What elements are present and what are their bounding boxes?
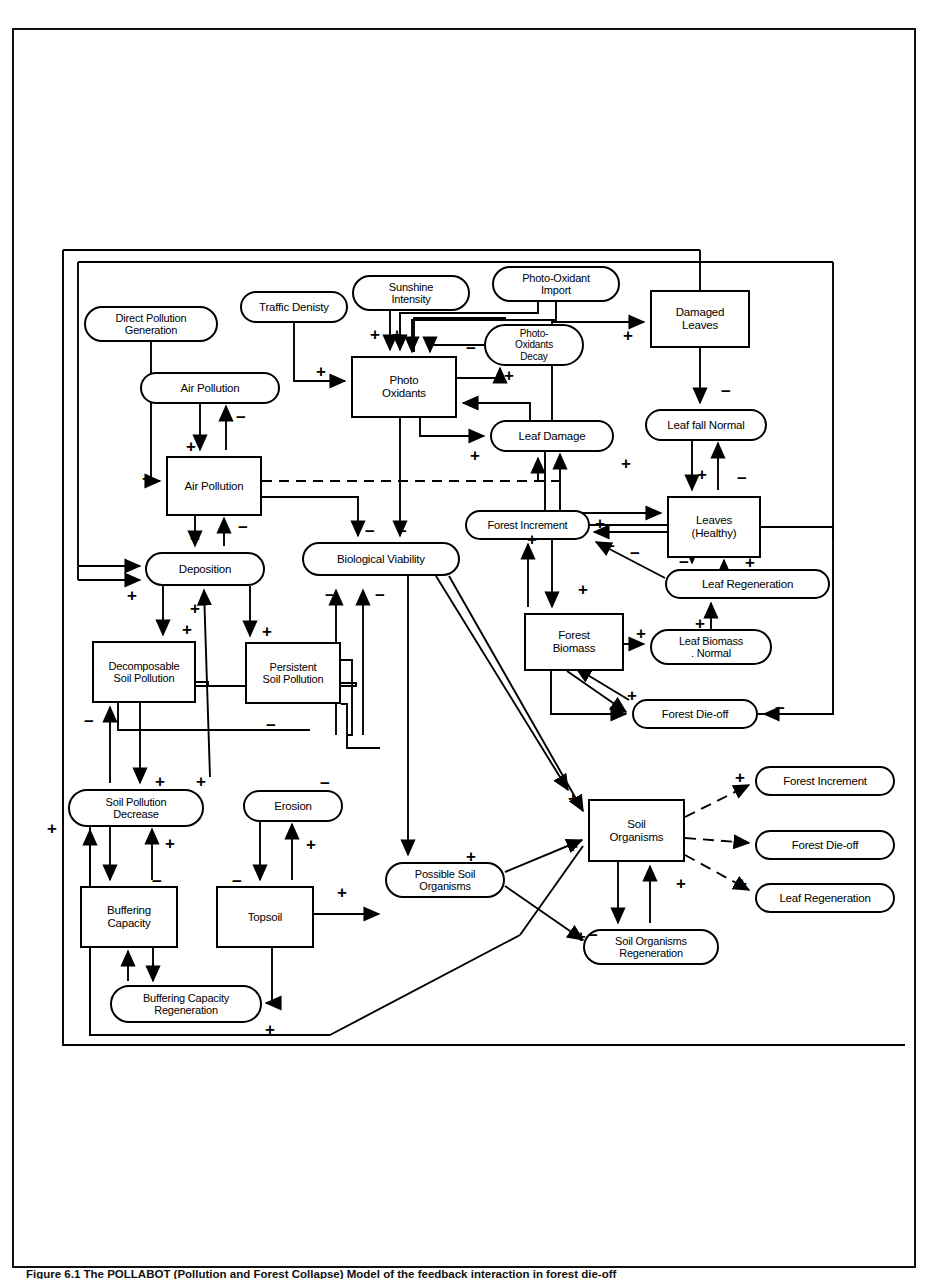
edge-sign-airrate-plus: + [186, 438, 196, 455]
node-possible-soil-organisms[interactable]: Possible Soil Organisms [385, 862, 505, 898]
edge-sign-fi-minus: − [605, 538, 615, 555]
node-photo-oxidants[interactable]: Photo Oxidants [351, 356, 457, 418]
node-label-photo-oxidants: Photo Oxidants [378, 374, 430, 400]
node-label-forest-die-off-out: Forest Die-off [788, 839, 863, 852]
node-leaf-regeneration[interactable]: Leaf Regeneration [665, 569, 830, 599]
edge-sign-leafbio-plus: + [636, 625, 646, 642]
node-label-photo-oxidant-import: Photo-Oxidant Import [518, 272, 594, 297]
edge-sign-bio-minus1: − [365, 523, 375, 540]
node-label-soil-organisms: Soil Organisms [606, 818, 668, 844]
node-leaf-regeneration-out[interactable]: Leaf Regeneration [755, 883, 895, 913]
edge-sign-dep-minus: − [238, 519, 248, 536]
edge-sign-healthy-minus: − [737, 470, 747, 487]
edge-sign-so-in-plus2: + [568, 838, 578, 855]
node-label-possible-soil-organisms: Possible Soil Organisms [411, 868, 479, 893]
edge-sign-sor-plus: + [676, 875, 686, 892]
edge-sign-eros-plus: + [306, 836, 316, 853]
edge-sign-bio-minus4: − [375, 587, 385, 604]
edge-sign-airlevel-plus: + [142, 470, 152, 487]
node-label-direct-pollution-generation: Direct Pollution Generation [112, 312, 191, 337]
node-forest-increment-out[interactable]: Forest Increment [755, 766, 895, 796]
node-photo-oxidant-import[interactable]: Photo-Oxidant Import [492, 266, 620, 302]
edge-sign-pox-plus-left: + [370, 326, 380, 343]
edge-sign-traffic-plus: + [316, 363, 326, 380]
edge-sign-fdo-out-minus: − [737, 833, 747, 850]
edge-sign-topsoil-minus: − [232, 873, 242, 890]
edge-sign-fi-out-plus: + [735, 769, 745, 786]
node-leaf-fall-normal[interactable]: Leaf fall Normal [645, 409, 767, 441]
edge-sign-leafbio-plus2: + [695, 615, 705, 632]
node-forest-die-off[interactable]: Forest Die-off [632, 699, 758, 729]
edge-sign-leafregen-plus: + [745, 554, 755, 571]
edge-sign-sor-minus: − [588, 927, 598, 944]
node-soil-organisms[interactable]: Soil Organisms [588, 799, 685, 862]
edge-sign-fb-plus: + [527, 531, 537, 548]
edge-sign-decay-plus: + [504, 367, 514, 384]
node-biological-viability[interactable]: Biological Viability [302, 542, 460, 576]
edge-sign-leafdmg2-plus: + [621, 455, 631, 472]
node-traffic-denisty[interactable]: Traffic Denisty [240, 291, 348, 323]
edge-sign-buff-plus: + [165, 835, 175, 852]
node-label-leaf-regeneration: Leaf Regeneration [698, 578, 797, 591]
edge-sign-persist-minus: − [266, 717, 276, 734]
edge-sign-decomp-minus: − [84, 713, 94, 730]
edge-sign-healthy-plus: + [697, 466, 707, 483]
node-soil-pollution-decrease[interactable]: Soil Pollution Decrease [68, 789, 204, 827]
edge-sign-airrate-minus: − [236, 409, 246, 426]
edge-sign-dep-plus: + [190, 530, 200, 547]
node-forest-biomass[interactable]: Forest Biomass [524, 613, 624, 671]
node-label-air-pollution-level: Air Pollution [181, 480, 248, 493]
edge-sign-decay-minus: − [466, 340, 476, 357]
edge-sign-dep-in-plus: + [127, 587, 137, 604]
node-persistent-soil-pollution[interactable]: Persistent Soil Pollution [245, 642, 341, 704]
node-soil-organisms-regeneration[interactable]: Soil Organisms Regeneration [583, 929, 719, 965]
node-air-pollution-rate[interactable]: Air Pollution [140, 372, 280, 404]
node-decomposable-soil-pollution[interactable]: Decomposable Soil Pollution [92, 641, 196, 703]
edge-sign-spd-plus2: + [196, 773, 206, 790]
edge-sign-decomp-plus: + [182, 621, 192, 638]
node-label-forest-increment-out: Forest Increment [779, 775, 871, 788]
edge-sign-fi-plus: + [595, 515, 605, 532]
edge-sign-leafregen-minus: − [679, 554, 689, 571]
edge-sign-pso-plus: + [466, 848, 476, 865]
node-label-leaves-healthy: Leaves (Healthy) [688, 514, 741, 540]
edge-sign-sor-plus2: + [576, 928, 586, 945]
node-buffering-capacity[interactable]: Buffering Capacity [80, 886, 178, 948]
node-topsoil[interactable]: Topsoil [216, 886, 314, 948]
edge-sign-bio-minus3: − [325, 587, 335, 604]
node-label-leaf-fall-normal: Leaf fall Normal [663, 419, 748, 432]
node-direct-pollution-generation[interactable]: Direct Pollution Generation [84, 306, 218, 342]
node-label-leaf-biomass-normal: Leaf Biomass . Normal [675, 635, 747, 660]
edge-sign-buff-minus: − [152, 873, 162, 890]
node-label-biological-viability: Biological Viability [333, 553, 429, 566]
node-label-leaf-damage: Leaf Damage [515, 430, 590, 443]
diagram-canvas [0, 0, 934, 1279]
node-forest-die-off-out[interactable]: Forest Die-off [755, 830, 895, 860]
edge-sign-so-in-plus1: + [568, 790, 578, 807]
edge-sign-lr-out-plus: + [737, 875, 747, 892]
node-air-pollution-level[interactable]: Air Pollution [166, 456, 262, 516]
node-label-forest-die-off: Forest Die-off [658, 708, 733, 721]
node-label-photo-oxidants-decay: Photo- Oxidants Decay [511, 328, 557, 362]
node-leaf-damage[interactable]: Leaf Damage [490, 420, 614, 452]
node-buffering-capacity-regeneration[interactable]: Buffering Capacity Regeneration [110, 985, 262, 1023]
node-erosion[interactable]: Erosion [243, 790, 343, 822]
node-label-forest-biomass: Forest Biomass [549, 629, 600, 655]
node-label-soil-pollution-decrease: Soil Pollution Decrease [102, 796, 171, 821]
edge-sign-bio-minus2: − [397, 523, 407, 540]
node-sunshine-intensity[interactable]: Sunshine Intensity [352, 275, 470, 311]
node-label-soil-organisms-regeneration: Soil Organisms Regeneration [611, 935, 691, 960]
node-leaves-healthy[interactable]: Leaves (Healthy) [667, 496, 761, 558]
edge-sign-erosion-minus: − [320, 775, 330, 792]
node-label-persistent-soil-pollution: Persistent Soil Pollution [259, 661, 328, 686]
edge-sign-spd-left-plus: + [47, 820, 57, 837]
node-deposition[interactable]: Deposition [145, 552, 265, 586]
node-photo-oxidants-decay[interactable]: Photo- Oxidants Decay [484, 324, 584, 366]
edge-sign-leafdamage-plus: + [470, 447, 480, 464]
edge-sign-buffregen-plus2: + [265, 1021, 275, 1038]
edge-sign-leaffall-minus: − [721, 383, 731, 400]
node-damaged-leaves[interactable]: Damaged Leaves [650, 290, 750, 348]
node-leaf-biomass-normal[interactable]: Leaf Biomass . Normal [650, 629, 772, 665]
edge-sign-dieoff-minus: − [775, 700, 785, 717]
node-label-air-pollution-rate: Air Pollution [177, 382, 244, 395]
